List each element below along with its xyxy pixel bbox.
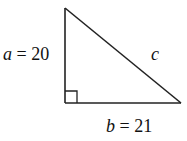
triangle-diagram: a = 20 b = 21 c	[0, 0, 187, 141]
label-c: c	[151, 44, 159, 64]
label-a: a = 20	[3, 44, 49, 64]
side-c-hypotenuse	[65, 8, 181, 103]
right-angle-marker	[65, 91, 77, 103]
label-b: b = 21	[106, 116, 152, 136]
